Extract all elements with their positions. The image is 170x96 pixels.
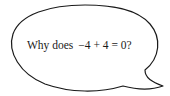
question-prefix: Why does (27, 39, 73, 51)
math-expression: −4 + 4 = 0? (78, 39, 131, 51)
speech-bubble-text: Why does−4 + 4 = 0? (0, 39, 170, 51)
